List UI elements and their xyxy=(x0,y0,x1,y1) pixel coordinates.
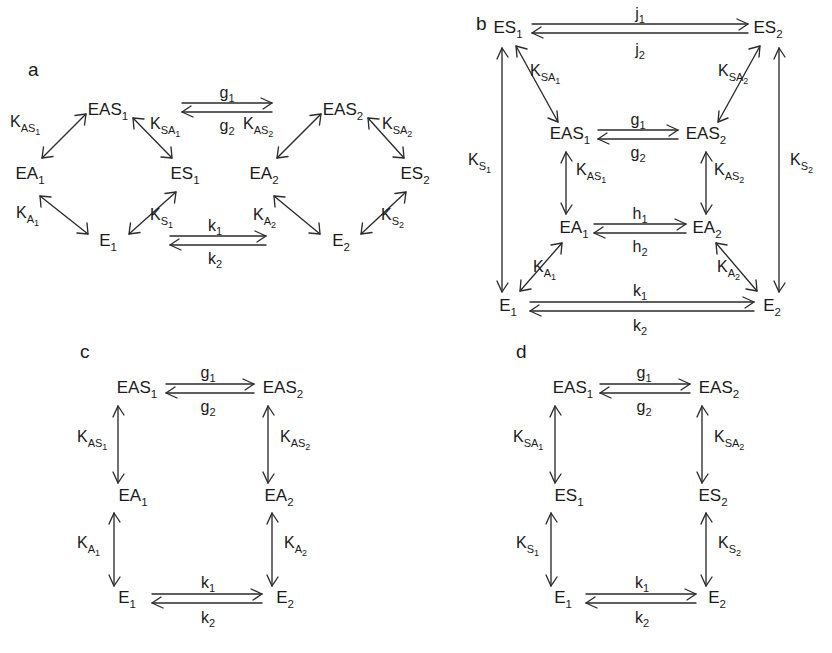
label-ksa1-d: KSA1 xyxy=(513,428,543,452)
node-eas2-d: EAS2 xyxy=(699,378,739,400)
label-j1-b: j1 xyxy=(634,5,645,25)
node-es1-d: ES1 xyxy=(554,486,583,508)
node-ea2-c: EA2 xyxy=(264,486,293,508)
figure-root: a EAS1 EA1 ES1 E1 EAS2 EA2 ES2 E2 xyxy=(0,0,832,653)
label-kas2-b: KAS2 xyxy=(714,161,744,185)
label-k1-c: k1 xyxy=(201,574,215,594)
label-ks2-b: KS2 xyxy=(790,151,813,175)
label-ks2-a: KS2 xyxy=(381,206,404,230)
label-ksa2-d: KSA2 xyxy=(714,428,744,452)
label-k2-a: k2 xyxy=(208,250,222,270)
panel-d: d EAS1 EAS2 ES1 ES2 E1 E2 g1 g2 k1 k2 xyxy=(513,341,744,629)
node-eas1-c: EAS1 xyxy=(117,378,157,400)
node-es2-d: ES2 xyxy=(698,486,727,508)
panel-a: a EAS1 EA1 ES1 E1 EAS2 EA2 ES2 E2 xyxy=(10,59,430,270)
label-ks1-a: KS1 xyxy=(150,206,173,230)
label-ka1-c: KA1 xyxy=(77,534,100,558)
edge-ksa1-b xyxy=(516,46,558,122)
node-ea1-a: EA1 xyxy=(15,164,44,186)
panel-b-letter: b xyxy=(476,13,487,34)
node-eas1-a: EAS1 xyxy=(88,100,128,122)
label-j2-b: j2 xyxy=(634,41,645,61)
label-g1-d: g1 xyxy=(636,364,651,384)
label-kas1-c: KAS1 xyxy=(77,428,107,452)
node-es1-a: ES1 xyxy=(170,164,199,186)
node-ea1-c: EA1 xyxy=(118,486,147,508)
edge-ea1-e1 xyxy=(40,196,88,234)
node-e2-a: E2 xyxy=(332,231,350,253)
label-g1-a: g1 xyxy=(219,84,234,104)
label-kas2-a: KAS2 xyxy=(243,115,273,139)
node-es2-a: ES2 xyxy=(400,164,429,186)
node-ea2-b: EA2 xyxy=(692,218,721,240)
node-e2-c: E2 xyxy=(276,588,294,610)
node-eas2-b: EAS2 xyxy=(686,124,726,146)
label-ka2-a: KA2 xyxy=(253,206,276,230)
label-g2-d: g2 xyxy=(636,398,651,418)
edge-ea2-eas2 xyxy=(277,114,321,158)
label-ksa2-a: KSA2 xyxy=(382,115,412,139)
node-e2-b: E2 xyxy=(763,296,781,318)
label-ka1-a: KA1 xyxy=(16,204,39,228)
panel-b: b ES1 ES2 EAS1 EAS2 EA1 EA2 E1 E2 j1 j2 … xyxy=(468,5,813,337)
label-k1-d: k1 xyxy=(635,574,649,594)
label-kas2-c: KAS2 xyxy=(280,428,310,452)
label-k2-d: k2 xyxy=(635,609,649,629)
edge-ea1-eas1 xyxy=(42,114,86,158)
node-eas2-c: EAS2 xyxy=(263,378,303,400)
label-ka2-b: KA2 xyxy=(717,258,740,282)
label-g2-a: g2 xyxy=(219,117,234,137)
node-ea2-a: EA2 xyxy=(249,164,278,186)
label-kas1-b: KAS1 xyxy=(576,161,606,185)
label-kas1-a: KAS1 xyxy=(10,113,40,137)
node-eas1-b: EAS1 xyxy=(550,124,590,146)
node-es2-b: ES2 xyxy=(753,18,782,40)
label-ka2-c: KA2 xyxy=(284,534,307,558)
panel-c-letter: c xyxy=(80,341,90,362)
label-k2-b: k2 xyxy=(633,317,647,337)
label-h2-b: h2 xyxy=(632,238,647,258)
node-e2-d: E2 xyxy=(708,588,726,610)
panel-c: c EAS1 EAS2 EA1 EA2 E1 E2 g1 g2 k1 k2 xyxy=(77,341,310,629)
edge-ea2-e2 xyxy=(274,196,320,234)
label-ka1-b: KA1 xyxy=(533,258,556,282)
node-ea1-b: EA1 xyxy=(559,218,588,240)
label-g1-b: g1 xyxy=(630,111,645,131)
edge-ksa2-b xyxy=(718,46,760,122)
panel-a-letter: a xyxy=(28,59,39,80)
node-e1-d: E1 xyxy=(554,588,572,610)
label-h1-b: h1 xyxy=(632,205,647,225)
node-e1-a: E1 xyxy=(99,231,117,253)
label-ksa1-b: KSA1 xyxy=(530,62,560,86)
reaction-scheme-canvas: a EAS1 EA1 ES1 E1 EAS2 EA2 ES2 E2 xyxy=(0,0,832,653)
label-k1-a: k1 xyxy=(208,217,222,237)
node-e1-b: E1 xyxy=(499,296,517,318)
label-ks2-d: KS2 xyxy=(718,534,741,558)
label-ks1-d: KS1 xyxy=(516,534,539,558)
node-e1-c: E1 xyxy=(118,588,136,610)
label-g1-c: g1 xyxy=(200,364,215,384)
label-g2-b: g2 xyxy=(630,144,645,164)
label-k2-c: k2 xyxy=(201,609,215,629)
label-ks1-b: KS1 xyxy=(468,151,491,175)
label-g2-c: g2 xyxy=(200,398,215,418)
node-es1-b: ES1 xyxy=(493,18,522,40)
node-eas2-a: EAS2 xyxy=(323,100,363,122)
panel-d-letter: d xyxy=(516,341,527,362)
label-ksa1-a: KSA1 xyxy=(150,115,180,139)
node-eas1-d: EAS1 xyxy=(553,378,593,400)
label-k1-b: k1 xyxy=(633,282,647,302)
